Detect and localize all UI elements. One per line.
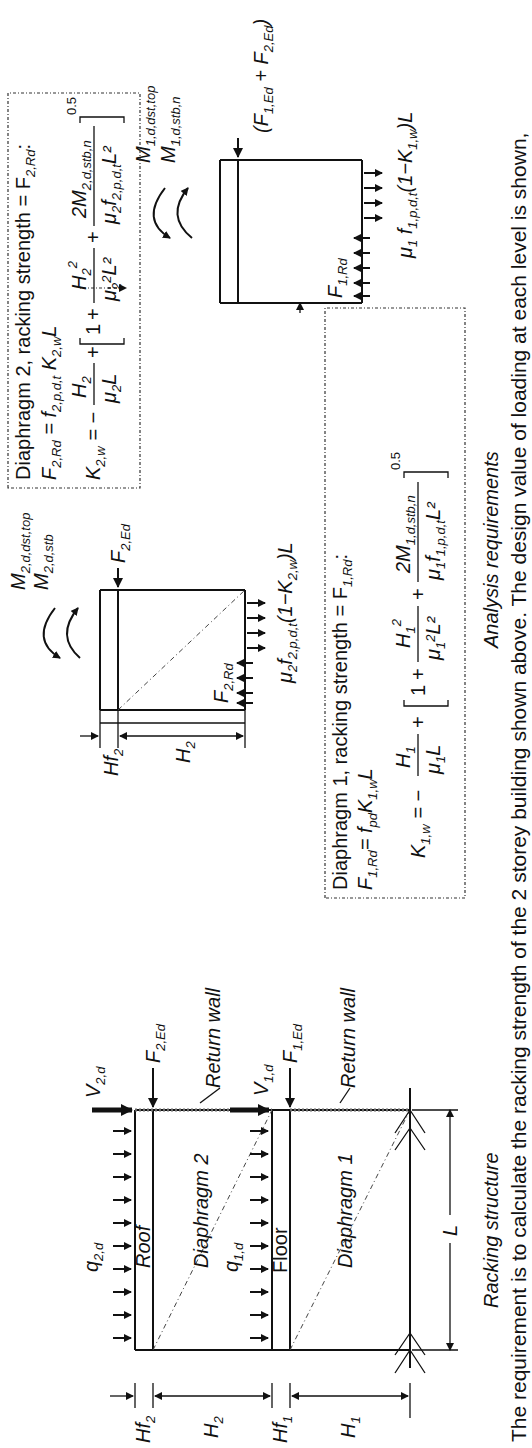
d2-base-reaction-label: μ2f2,p,d,t(1−K2,w)L (274, 542, 300, 684)
f2rd-label: F2,Rd (210, 663, 236, 703)
svg-text:+: + (82, 346, 104, 358)
svg-text:2M2,d,stb,n: 2M2,d,stb,n (68, 140, 94, 219)
diaphragm2-label: Diaphragm 2 (190, 1153, 212, 1268)
q2d-distributed-load (113, 1131, 131, 1338)
box2-eq1: F2,Rd = f2,p,d,t K2,wL (38, 326, 64, 480)
box2-eq2-lhs: K2,w = − (82, 412, 108, 480)
formula-box-diaphragm1: Diaphragm 1, racking strength = F1,Rd: F… (325, 308, 465, 898)
svg-text:+: + (407, 588, 429, 600)
q1d-distributed-load (250, 1131, 268, 1338)
svg-text:1: 1 (407, 685, 429, 696)
svg-text:1: 1 (82, 324, 104, 335)
box2-heading: Diaphragm 2, racking strength = F2,Rd: (12, 144, 38, 480)
d1-base-reaction-label: μ1 f1,p,d,t(1−K1,w)L (394, 112, 420, 259)
svg-text:Diaphragm 1, racking strength: Diaphragm 1, racking strength = F1,Rd: (329, 554, 355, 890)
v1d-label: V1,d (250, 1064, 276, 1096)
f2ed-label: F2,Ed (142, 1023, 168, 1063)
svg-text:H22: H22 (65, 260, 94, 290)
m1-stb-label: M1,d,stb,n (157, 96, 183, 163)
return-wall-upper-label: Return wall (202, 987, 224, 1088)
svg-text:+: + (407, 668, 429, 680)
svg-text:0.5: 0.5 (388, 452, 403, 470)
load-sum-label: (F1,Ed + F2,Ed) (250, 19, 276, 133)
svg-text:H12: H12 (389, 618, 418, 648)
h1-label: H1 (337, 1416, 363, 1438)
m2-stb-label: M2,d,stb (30, 534, 56, 590)
return-wall-lower-label: Return wall (337, 987, 359, 1088)
f1ed-label: F1,Ed (279, 1023, 305, 1063)
diaphragm1-label: Diaphragm 1 (334, 1153, 356, 1268)
formula-box-diaphragm2: Diaphragm 2, racking strength = F2,Rd: F… (8, 93, 140, 488)
h2-free-body-label: H2 (172, 741, 198, 763)
svg-text:+: + (407, 716, 429, 728)
hf2-label: Hf2 (132, 1415, 158, 1443)
hf1-label: Hf1 (269, 1416, 295, 1443)
svg-text:K1,w = −: K1,w = − (407, 790, 433, 858)
svg-text:μ1f1,p,d,tL²: μ1f1,p,d,tL² (422, 501, 448, 581)
height-dimensions (110, 1383, 410, 1418)
return-wall-leader-lower (340, 1088, 350, 1103)
svg-text:μ1L: μ1L (422, 745, 448, 775)
svg-text:H1: H1 (392, 746, 418, 768)
f2ed-free-body-label: F2,Ed (107, 523, 133, 563)
diaphragm1-free-body: M1,d,dst,top M1,d,stb,n (F1,Ed + F2,Ed) … (80, 19, 420, 313)
analysis-requirements-title: Analysis requirements (480, 451, 502, 649)
return-wall-leader-upper (200, 1088, 220, 1103)
figure-caption: The requirement is to calculate the rack… (507, 133, 530, 1442)
box2-frac1-num: H2 (68, 376, 94, 398)
svg-text:+: + (82, 308, 104, 320)
svg-text:0.5: 0.5 (64, 97, 79, 115)
racking-structure-panel: q2,d q1,d V2,d V1,d F2,Ed F1,Ed Roof Flo… (80, 987, 502, 1443)
svg-text:F1,Rd= fpdK1,wL: F1,Rd= fpdK1,wL (354, 768, 380, 890)
diaphragm2-free-body: M2,d,dst,top M2,d,stb F2,Ed F2,Rd Hf2 H2… (7, 513, 300, 776)
floor-label: Floor (269, 1227, 291, 1273)
v2d-label: V2,d (82, 1066, 108, 1098)
racking-structure-title: Racking structure (480, 1152, 502, 1308)
svg-text:+: + (82, 231, 104, 243)
hf2-free-body-label: Hf2 (100, 748, 126, 776)
length-label: L (439, 1225, 461, 1236)
svg-text:μ2f2,p,d,tL²: μ2f2,p,d,tL² (98, 145, 124, 225)
roof-label: Roof (132, 1223, 154, 1268)
h2-label: H2 (200, 1416, 226, 1438)
svg-text:μ22L²: μ22L² (98, 256, 124, 302)
q1d-label: q1,d (220, 1242, 246, 1272)
q2d-label: q2,d (80, 1242, 106, 1272)
box2-frac1-den: μ2L (98, 374, 124, 404)
figure-svg: q2,d q1,d V2,d V1,d F2,Ed F1,Ed Roof Flo… (0, 0, 532, 1448)
svg-text:2M1,d,stb,n: 2M1,d,stb,n (392, 495, 418, 574)
svg-text:μ12L²: μ12L² (422, 615, 448, 661)
figure-canvas: q2,d q1,d V2,d V1,d F2,Ed F1,Ed Roof Flo… (0, 0, 532, 1448)
f1rd-label: F1,Rd (324, 258, 350, 298)
m1-dst-label: M1,d,dst,top (132, 86, 158, 163)
